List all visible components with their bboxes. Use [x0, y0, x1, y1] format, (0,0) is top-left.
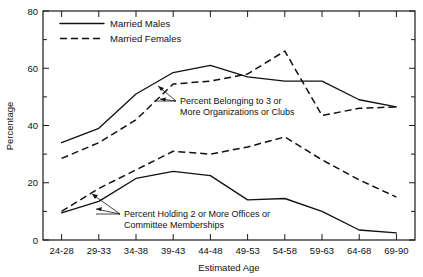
legend-label-married-males: Married Males	[110, 18, 170, 29]
annotation-organizations-line2: More Organizations or Clubs	[180, 107, 295, 117]
chart-legend: Married Males Married Females	[60, 18, 182, 44]
y-tick-label: 40	[27, 120, 38, 131]
annotation-arrow-lower-b	[96, 207, 102, 211]
y-tick-label: 80	[27, 6, 38, 17]
y-tick-label: 60	[27, 63, 38, 74]
plot-frame	[43, 11, 415, 240]
y-axis-tick-labels: 020406080	[27, 6, 38, 246]
x-axis-title: Estimated Age	[198, 262, 259, 273]
annotation-offices: Percent Holding 2 or More Offices or Com…	[92, 194, 270, 230]
x-tick-label: 59-63	[310, 245, 334, 256]
x-axis-ticks	[62, 11, 397, 240]
x-axis-tick-labels: 24-2829-3334-3839-4344-4849-5354-5859-63…	[49, 245, 408, 256]
chart-container: 020406080 24-2829-3334-3839-4344-4849-53…	[0, 0, 423, 277]
annotation-arrow-lower-a	[92, 194, 98, 199]
x-tick-label: 69-90	[384, 245, 408, 256]
y-tick-label: 0	[33, 235, 38, 246]
annotation-organizations: Percent Belonging to 3 or More Organizat…	[154, 86, 295, 117]
x-tick-label: 54-58	[273, 245, 297, 256]
x-tick-label: 49-53	[235, 245, 259, 256]
y-axis-title: Percentage	[4, 102, 15, 151]
x-tick-label: 44-48	[198, 245, 222, 256]
percentage-vs-estimated-age-line-chart: 020406080 24-2829-3334-3839-4344-4849-53…	[0, 0, 423, 277]
annotation-offices-line1: Percent Holding 2 or More Offices or	[124, 209, 270, 219]
series-line-3	[62, 137, 397, 211]
y-axis-ticks	[43, 11, 415, 240]
x-tick-label: 39-43	[161, 245, 185, 256]
annotation-organizations-line1: Percent Belonging to 3 or	[180, 96, 282, 106]
x-tick-label: 29-33	[87, 245, 111, 256]
annotation-offices-line2: Committee Memberships	[124, 220, 225, 230]
legend-label-married-females: Married Females	[110, 33, 182, 44]
x-tick-label: 64-68	[347, 245, 371, 256]
y-tick-label: 20	[27, 177, 38, 188]
x-tick-label: 24-28	[49, 245, 73, 256]
series-line-2	[62, 171, 397, 233]
x-tick-label: 34-38	[124, 245, 148, 256]
data-series-group	[62, 51, 397, 233]
